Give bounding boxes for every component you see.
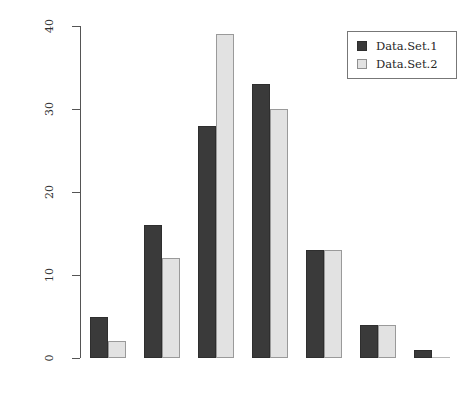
bar-group — [306, 26, 342, 358]
y-axis-tick — [72, 192, 80, 193]
bar-series-2[interactable] — [162, 258, 180, 358]
bar-series-1[interactable] — [414, 350, 432, 358]
y-axis-tick-label: 40 — [43, 6, 57, 46]
y-axis-tick — [72, 275, 80, 276]
y-axis-tick — [72, 358, 80, 359]
bar-chart: Number of Domains 010203040 Data.Set.1 D… — [0, 0, 468, 408]
bar-series-1[interactable] — [90, 317, 108, 359]
bar-series-1[interactable] — [306, 250, 324, 358]
legend-item-series-2[interactable]: Data.Set.2 — [354, 55, 450, 73]
y-axis-tick-label: 30 — [43, 89, 57, 129]
bar-group — [144, 26, 180, 358]
bar-group — [90, 26, 126, 358]
bar-series-2[interactable] — [324, 250, 342, 358]
y-axis-tick-label: 10 — [43, 255, 57, 295]
legend-item-series-1[interactable]: Data.Set.1 — [354, 37, 450, 55]
legend: Data.Set.1 Data.Set.2 — [347, 31, 457, 79]
bar-series-2[interactable] — [108, 341, 126, 358]
legend-label-series-2: Data.Set.2 — [376, 57, 438, 71]
bar-group — [252, 26, 288, 358]
bar-series-2[interactable] — [270, 109, 288, 358]
bar-series-2[interactable] — [432, 357, 450, 358]
bar-series-1[interactable] — [198, 126, 216, 358]
bar-series-1[interactable] — [144, 225, 162, 358]
bar-series-2[interactable] — [378, 325, 396, 358]
light-square-swatch-icon — [357, 59, 367, 69]
y-axis-tick — [72, 109, 80, 110]
bar-series-2[interactable] — [216, 34, 234, 358]
bar-group — [198, 26, 234, 358]
bar-series-1[interactable] — [252, 84, 270, 358]
y-axis-tick-label: 20 — [43, 172, 57, 212]
y-axis-title: Number of Domains — [0, 0, 40, 40]
y-axis-tick-label: 0 — [43, 338, 57, 378]
legend-label-series-1: Data.Set.1 — [376, 39, 438, 53]
y-axis-tick — [72, 26, 80, 27]
dark-square-swatch-icon — [357, 41, 367, 51]
bar-series-1[interactable] — [360, 325, 378, 358]
